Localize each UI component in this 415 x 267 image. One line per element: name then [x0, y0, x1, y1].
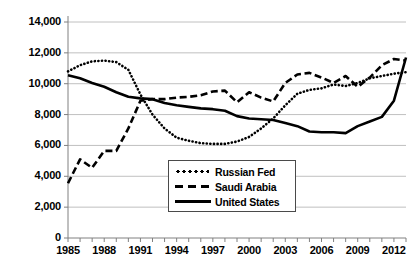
legend-item-russian-fed: Russian Fed [174, 164, 290, 179]
dotted-line-key [174, 166, 210, 177]
legend-label-united-states: United States [215, 196, 280, 208]
legend-item-saudi-arabia: Saudi Arabia [174, 179, 290, 194]
y-axis-tick-label: 2,000 [34, 200, 61, 212]
solid-line-key [174, 196, 210, 207]
y-axis-tick-label: 6,000 [34, 138, 61, 150]
legend-item-united-states: United States [174, 194, 290, 209]
chart-plot-area [0, 0, 415, 267]
y-axis-tick-label: 4,000 [34, 169, 61, 181]
y-axis-tick-label: 14,000 [29, 15, 61, 27]
series-line-russian-fed [68, 61, 406, 144]
series-line-united-states [68, 57, 406, 133]
x-axis-tick-label: 2012 [370, 244, 415, 256]
legend-label-russian-fed: Russian Fed [215, 166, 275, 178]
y-axis-tick-label: 0 [55, 231, 61, 243]
line-chart: Russian Fed Saudi Arabia United States 0… [0, 0, 415, 267]
dashed-line-key [174, 181, 210, 192]
chart-legend: Russian Fed Saudi Arabia United States [168, 160, 296, 212]
y-axis-tick-label: 12,000 [29, 46, 61, 58]
legend-label-saudi-arabia: Saudi Arabia [215, 181, 276, 193]
y-axis-tick-label: 10,000 [29, 77, 61, 89]
y-axis-tick-label: 8,000 [34, 108, 61, 120]
